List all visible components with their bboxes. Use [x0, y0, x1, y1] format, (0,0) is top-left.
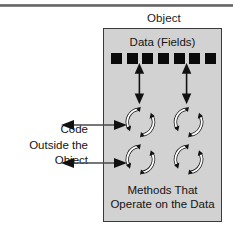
outside-connectors: [0, 0, 233, 232]
encapsulation-diagram: Object Data (Fields): [0, 0, 233, 232]
outside-to-method-arrow-bottom: [61, 158, 127, 168]
outside-to-method-arrow-top: [61, 120, 127, 130]
